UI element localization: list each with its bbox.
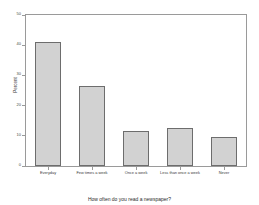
y-tick-label: 40 [17,41,21,46]
y-tick-label: 20 [17,102,21,107]
y-tick-mark [22,105,25,106]
y-tick-label: 30 [17,71,21,76]
y-tick-label: 0 [19,162,21,167]
bar [79,86,105,166]
y-tick-mark [22,135,25,136]
bar [35,42,61,166]
plot-area [25,14,247,167]
bar-slot [202,15,246,166]
x-tick-label: Once a week [111,171,161,176]
y-tick-mark [22,45,25,46]
bar-slot [70,15,114,166]
y-tick-label: 50 [17,11,21,16]
x-tick-label: Few times a week [67,171,117,176]
bar-slot [114,15,158,166]
bar-slot [158,15,202,166]
bar [211,137,237,166]
x-tick-label: Less than once a week [155,171,205,176]
bar-chart: Percent 01020304050 EverydayFew times a … [0,0,259,205]
y-tick-mark [22,75,25,76]
bar-slot [26,15,70,166]
bar [167,128,193,166]
x-axis-title: How often do you read a newspaper? [0,196,259,202]
y-tick-label: 10 [17,132,21,137]
x-tick-label: Everyday [23,171,73,176]
x-tick-label: Never [199,171,249,176]
y-tick-mark [22,15,25,16]
bars-layer [26,15,246,166]
y-tick-mark [22,166,25,167]
bar [123,131,149,166]
